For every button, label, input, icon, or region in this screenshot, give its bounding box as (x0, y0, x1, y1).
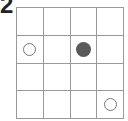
grid-cell-r3-c1[interactable] (17, 64, 44, 92)
grid-cell-r4-c1[interactable] (17, 91, 44, 119)
puzzle-number: 2 (0, 0, 13, 17)
grid-cell-r1-c2[interactable] (44, 8, 71, 36)
grid-cell-r2-c2[interactable] (44, 36, 71, 64)
grid-cell-r2-c1[interactable] (17, 36, 44, 64)
grid-cell-r4-c2[interactable] (44, 91, 71, 119)
grid-cell-r2-c4[interactable] (97, 36, 124, 64)
grid-cell-r1-c4[interactable] (97, 8, 124, 36)
grid-cell-r4-c3[interactable] (71, 91, 98, 119)
open-circle-icon (104, 98, 117, 111)
grid-cell-r3-c2[interactable] (44, 64, 71, 92)
grid-cell-r3-c3[interactable] (71, 64, 98, 92)
grid-cell-r4-c4[interactable] (97, 91, 124, 119)
grid-cell-r2-c3[interactable] (71, 36, 98, 64)
grid-cell-r1-c1[interactable] (17, 8, 44, 36)
grid-cell-r3-c4[interactable] (97, 64, 124, 92)
grid-cell-r1-c3[interactable] (71, 8, 98, 36)
grid-board (16, 7, 124, 119)
open-circle-icon (23, 43, 36, 56)
filled-circle-icon (76, 42, 91, 57)
